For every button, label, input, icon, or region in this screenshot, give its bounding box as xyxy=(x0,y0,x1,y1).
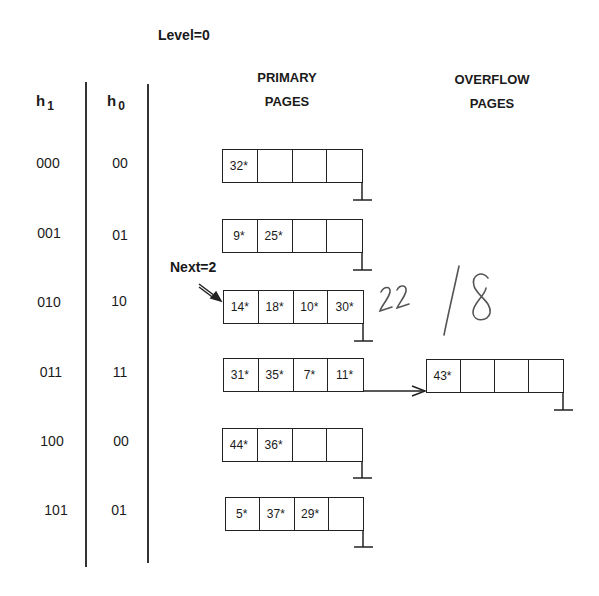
next-pointer-arrow-icon xyxy=(199,284,221,301)
null-pointer-icon xyxy=(354,323,373,341)
overflow-link-arrow-icon xyxy=(364,386,425,396)
null-pointer-icon xyxy=(354,530,373,547)
null-pointer-icon xyxy=(353,461,372,478)
connectors-layer xyxy=(0,0,599,596)
handwritten-18-icon xyxy=(444,266,490,335)
null-pointer-icon xyxy=(554,392,573,410)
handwritten-22-icon xyxy=(380,286,409,311)
null-pointer-icon xyxy=(353,253,372,270)
null-pointer-icon xyxy=(353,183,372,200)
